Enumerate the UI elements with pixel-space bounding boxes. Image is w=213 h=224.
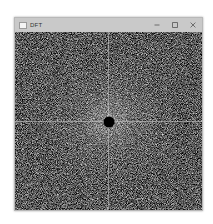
minimize-icon: [154, 22, 160, 28]
maximize-button[interactable]: [166, 18, 184, 32]
dft-image-view: [15, 32, 202, 210]
close-button[interactable]: [184, 18, 202, 32]
title-bar[interactable]: DFT: [15, 18, 202, 32]
window-controls: [148, 18, 202, 32]
close-icon: [190, 22, 196, 28]
app-window-icon: [19, 22, 27, 29]
window-title: DFT: [30, 22, 42, 28]
dc-component-mask: [103, 116, 114, 127]
dft-window: DFT: [14, 17, 203, 211]
minimize-button[interactable]: [148, 18, 166, 32]
maximize-icon: [172, 22, 178, 28]
